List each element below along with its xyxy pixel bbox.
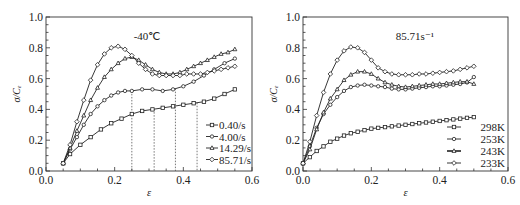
circle-marker-icon — [383, 85, 386, 88]
legend-square-icon — [452, 125, 455, 128]
diamond-marker-icon — [417, 72, 422, 77]
y-tick-label: 0.0 — [29, 165, 44, 177]
square-marker-icon — [329, 140, 332, 143]
square-marker-icon — [161, 106, 164, 109]
triangle-marker-icon — [431, 82, 435, 86]
square-marker-icon — [110, 122, 113, 125]
legend-label: 0.40/s — [219, 119, 246, 131]
square-marker-icon — [233, 88, 236, 91]
square-marker-icon — [431, 120, 434, 123]
square-marker-icon — [363, 128, 366, 131]
legend-label: 243K — [481, 145, 506, 157]
circle-marker-icon — [397, 88, 400, 91]
circle-marker-icon — [370, 84, 373, 87]
circle-marker-icon — [103, 98, 106, 101]
diamond-marker-icon — [321, 90, 326, 95]
y-tick-label: 0.8 — [286, 42, 301, 54]
legend: 298K253K243K233K — [447, 121, 505, 169]
square-marker-icon — [68, 152, 71, 155]
square-marker-icon — [315, 149, 318, 152]
x-axis-label: ε — [147, 187, 152, 198]
diamond-marker-icon — [458, 67, 463, 72]
triangle-marker-icon — [123, 56, 127, 60]
circle-marker-icon — [356, 84, 359, 87]
square-marker-icon — [335, 137, 338, 140]
circle-marker-icon — [233, 57, 236, 60]
square-marker-icon — [390, 125, 393, 128]
square-marker-icon — [356, 130, 359, 133]
y-tick-label: 0.6 — [29, 73, 44, 85]
triangle-marker-icon — [397, 84, 401, 88]
square-marker-icon — [151, 108, 154, 111]
legend-label: 253K — [481, 133, 506, 145]
square-marker-icon — [140, 109, 143, 112]
diamond-marker-icon — [95, 62, 100, 67]
triangle-marker-icon — [185, 67, 189, 71]
square-marker-icon — [370, 127, 373, 130]
diamond-marker-icon — [116, 44, 121, 49]
triangle-marker-icon — [205, 58, 209, 62]
square-marker-icon — [192, 102, 195, 105]
diamond-marker-icon — [451, 69, 456, 74]
diamond-marker-icon — [233, 64, 238, 69]
square-marker-icon — [120, 117, 123, 120]
diamond-marker-icon — [383, 69, 388, 74]
square-marker-icon — [89, 135, 92, 138]
square-marker-icon — [342, 134, 345, 137]
circle-marker-icon — [89, 112, 92, 115]
triangle-marker-icon — [356, 69, 360, 73]
y-tick-label: 1.0 — [29, 11, 44, 23]
triangle-marker-icon — [199, 61, 203, 65]
circle-marker-icon — [192, 80, 195, 83]
square-marker-icon — [472, 115, 475, 118]
right-chart-panel: 0.00.20.40.60.00.20.40.60.81.0εσ/Cₑ85.71… — [268, 11, 515, 198]
triangle-marker-icon — [404, 85, 408, 89]
square-marker-icon — [223, 92, 226, 95]
square-marker-icon — [411, 122, 414, 125]
triangle-marker-icon — [82, 113, 86, 117]
triangle-marker-icon — [465, 79, 469, 83]
y-tick-label: 1.0 — [286, 11, 301, 23]
square-marker-icon — [171, 105, 174, 108]
triangle-marker-icon — [144, 63, 148, 67]
triangle-marker-icon — [390, 83, 394, 87]
circle-marker-icon — [123, 89, 126, 92]
diamond-marker-icon — [328, 72, 333, 77]
triangle-marker-icon — [458, 79, 462, 83]
diamond-marker-icon — [349, 45, 354, 50]
diamond-marker-icon — [444, 69, 449, 74]
x-tick-label: 0.4 — [176, 174, 191, 186]
triangle-marker-icon — [369, 72, 373, 76]
diamond-marker-icon — [472, 64, 477, 69]
x-tick-label: 0.2 — [107, 174, 122, 186]
diamond-marker-icon — [431, 71, 436, 76]
circle-marker-icon — [363, 83, 366, 86]
legend-square-icon — [210, 123, 213, 126]
square-marker-icon — [458, 117, 461, 120]
circle-marker-icon — [151, 88, 154, 91]
legend-label: 4.00/s — [219, 131, 246, 143]
circle-marker-icon — [472, 75, 475, 78]
square-marker-icon — [308, 155, 311, 158]
triangle-marker-icon — [417, 83, 421, 87]
circle-marker-icon — [82, 123, 85, 126]
legend-label: 298K — [481, 121, 506, 133]
diamond-marker-icon — [424, 72, 429, 77]
square-marker-icon — [397, 124, 400, 127]
triangle-marker-icon — [192, 64, 196, 68]
circle-marker-icon — [161, 89, 164, 92]
y-axis-label: σ/Cₑ — [268, 85, 279, 102]
figure: 0.00.20.40.60.00.20.40.60.81.0εσ/Cₑ-40℃0… — [0, 0, 520, 205]
triangle-marker-icon — [226, 50, 230, 54]
diamond-marker-icon — [81, 98, 86, 103]
square-marker-icon — [130, 112, 133, 115]
series-line — [63, 49, 235, 163]
triangle-marker-icon — [322, 110, 326, 114]
y-tick-label: 0.6 — [286, 73, 301, 85]
circle-marker-icon — [130, 89, 133, 92]
circle-marker-icon — [329, 103, 332, 106]
x-axis-label: ε — [403, 187, 408, 198]
diamond-marker-icon — [226, 66, 231, 71]
diamond-marker-icon — [403, 72, 408, 77]
chart-title: 85.71s⁻¹ — [396, 30, 434, 42]
